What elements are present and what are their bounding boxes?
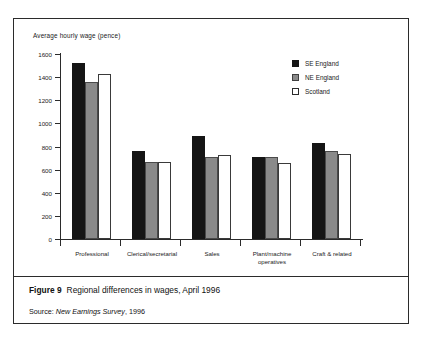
- x-axis-label: Plant/machineoperatives: [253, 250, 292, 265]
- legend: SE EnglandNE EnglandScotland: [292, 56, 339, 98]
- bar-se: [312, 143, 325, 239]
- bar-se: [132, 151, 145, 239]
- x-axis-line: [60, 239, 363, 240]
- bar-sc: [158, 162, 171, 239]
- legend-swatch-icon: [292, 88, 299, 95]
- source-year: , 1996: [125, 307, 145, 316]
- legend-swatch-icon: [292, 60, 299, 67]
- x-axis-label: Clerical/secretarial: [127, 250, 177, 258]
- legend-swatch-icon: [292, 74, 299, 81]
- caption-divider: [14, 276, 408, 277]
- bar-group: [132, 151, 171, 239]
- y-tick-label: 1200: [22, 97, 52, 104]
- y-tick-label: 400: [22, 189, 52, 196]
- figure-source: Source: New Earnings Survey, 1996: [29, 307, 145, 316]
- bar-sc: [278, 163, 291, 239]
- x-axis-label: Professional: [75, 250, 109, 258]
- bar-ne: [325, 151, 338, 239]
- y-tick-label: 600: [22, 166, 52, 173]
- x-axis-label: Craft & related: [312, 250, 351, 258]
- legend-label: SE England: [305, 60, 339, 67]
- x-tick-mark: [240, 240, 241, 246]
- bar-ne: [265, 157, 278, 239]
- figure-card: Average hourly wage (pence) 160014001200…: [13, 18, 409, 324]
- bar-se: [252, 157, 265, 239]
- y-tick-label: 200: [22, 212, 52, 219]
- legend-item: NE England: [292, 70, 339, 84]
- bar-se: [192, 136, 205, 239]
- bar-group: [252, 157, 291, 239]
- legend-item: SE England: [292, 56, 339, 70]
- x-tick-mark: [120, 240, 121, 246]
- x-tick-mark: [180, 240, 181, 246]
- bar-sc: [218, 155, 231, 239]
- bar-se: [72, 63, 85, 239]
- y-tick-label: 1600: [22, 51, 52, 58]
- figure-title: Regional differences in wages, April 199…: [67, 285, 221, 295]
- figure-caption: Figure 9Regional differences in wages, A…: [29, 285, 398, 295]
- bar-sc: [98, 74, 111, 239]
- legend-item: Scotland: [292, 84, 339, 98]
- bar-ne: [145, 162, 158, 239]
- source-publication: New Earnings Survey: [56, 307, 125, 316]
- y-tick-label: 1000: [22, 120, 52, 127]
- legend-label: Scotland: [305, 88, 330, 95]
- bar-ne: [85, 82, 98, 239]
- x-tick-mark: [360, 240, 361, 246]
- source-prefix: Source:: [29, 307, 54, 316]
- bar-sc: [338, 154, 351, 239]
- bar-group: [72, 63, 111, 239]
- y-tick-label: 0: [22, 236, 52, 243]
- legend-label: NE England: [305, 74, 339, 81]
- y-tick-label: 1400: [22, 74, 52, 81]
- figure-number: Figure 9: [29, 285, 62, 295]
- chart-area: Average hourly wage (pence) 160014001200…: [14, 19, 408, 276]
- y-tick-label: 800: [22, 143, 52, 150]
- y-axis-title: Average hourly wage (pence): [33, 32, 120, 39]
- bar-ne: [205, 157, 218, 239]
- x-tick-mark: [300, 240, 301, 246]
- bar-group: [192, 136, 231, 239]
- x-tick-mark: [60, 240, 61, 246]
- bar-group: [312, 143, 351, 239]
- x-axis-label: Sales: [204, 250, 219, 258]
